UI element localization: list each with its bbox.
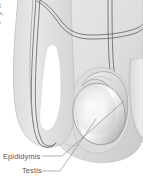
penile-shaft-body: [13, 0, 80, 147]
column-bleed-text-line-1: ng: [0, 1, 1, 9]
label-testis: Testis: [22, 166, 42, 175]
column-bleed-text-line-2: ure,: [0, 9, 4, 17]
figure-page: ng ure, es g. Epididymis Testis: [0, 0, 143, 181]
label-epididymis: Epididymis: [3, 152, 40, 161]
column-bleed-text-line-3: es: [0, 18, 1, 26]
